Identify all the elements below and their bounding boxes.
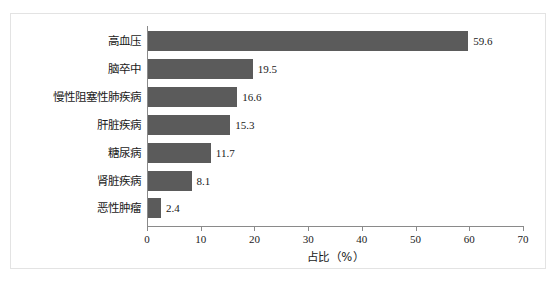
x-tick-label-70: 70 [508,232,538,246]
value-label: 16.6 [242,87,261,107]
bar [148,115,230,135]
category-label: 肝脏疾病 [0,115,141,135]
x-axis-title: 占比（%） [147,248,524,264]
x-tick-40 [362,227,363,231]
chart-frame-border [10,13,546,269]
x-tick-label-0: 0 [132,232,162,246]
bar [148,198,161,218]
category-label: 慢性阻塞性肺疾病 [0,87,141,107]
category-label: 脑卒中 [0,59,141,79]
x-tick-label-60: 60 [454,232,484,246]
x-tick-label-10: 10 [186,232,216,246]
bar [148,87,237,107]
category-label: 糖尿病 [0,143,141,163]
x-tick-label-40: 40 [347,232,377,246]
value-label: 19.5 [258,59,277,79]
bar [148,31,468,51]
bar [148,171,192,191]
x-tick-30 [308,227,309,231]
bar [148,59,253,79]
x-tick-20 [254,227,255,231]
x-tick-0 [147,227,148,231]
value-label: 15.3 [235,115,254,135]
bar [148,143,211,163]
chart-figure: 010203040506070 高血压脑卒中慢性阻塞性肺疾病肝脏疾病糖尿病肾脏疾… [0,0,557,283]
category-label: 肾脏疾病 [0,171,141,191]
x-axis-line [147,226,524,227]
x-tick-label-20: 20 [239,232,269,246]
value-label: 8.1 [197,171,211,191]
category-label: 恶性肿瘤 [0,198,141,218]
value-label: 11.7 [216,143,235,163]
x-tick-70 [523,227,524,231]
value-label: 59.6 [473,31,492,51]
x-tick-60 [469,227,470,231]
x-tick-10 [201,227,202,231]
x-tick-50 [416,227,417,231]
category-label: 高血压 [0,31,141,51]
x-tick-label-50: 50 [401,232,431,246]
value-label: 2.4 [166,198,180,218]
x-tick-label-30: 30 [293,232,323,246]
